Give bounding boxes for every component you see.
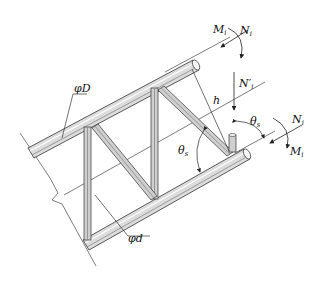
- axial-force-bottom-arrow: [270, 125, 302, 143]
- angle-arc-left: [197, 130, 204, 172]
- top-chord: [28, 59, 201, 158]
- label-moment-top: Mi: [212, 23, 227, 37]
- label-axial-top: Ni: [239, 24, 252, 38]
- label-height: h: [213, 94, 220, 107]
- label-web-diameter: φd: [128, 232, 143, 245]
- label-angle-left: θs: [178, 144, 189, 158]
- bottom-chord: [83, 148, 252, 250]
- label-moment-bottom: Mi: [289, 145, 304, 159]
- stub-member: [229, 135, 236, 152]
- truss-diagram: φD φd h Mi Ni N′i θs θs Ni Mi: [0, 0, 322, 283]
- label-angle-right: θs: [250, 115, 261, 129]
- moment-bottom-arrow: [273, 118, 288, 148]
- label-vertical-force: N′i: [238, 77, 253, 91]
- label-axial-bottom: Ni: [291, 113, 304, 127]
- label-chord-diameter: φD: [74, 82, 91, 95]
- bottom-chord-axis-extension: [235, 131, 275, 153]
